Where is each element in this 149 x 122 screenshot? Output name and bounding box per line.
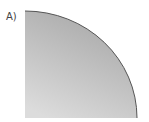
quarter-circle-fill xyxy=(25,11,137,118)
quarter-circle-diagram xyxy=(0,0,149,122)
